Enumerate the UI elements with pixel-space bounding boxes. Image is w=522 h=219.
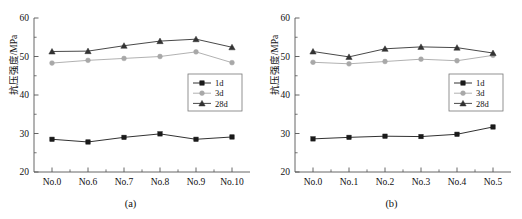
- data-point-marker-square: [158, 132, 162, 136]
- data-point-marker-square: [419, 134, 423, 138]
- chart-panel-b: 2030405060No.0No.1No.2No.3No.4No.51d3d28…: [261, 0, 522, 219]
- x-axis-tick-label: No.0: [43, 177, 62, 187]
- x-axis-tick-label: No.3: [412, 177, 431, 187]
- data-point-marker-circle: [50, 61, 55, 66]
- data-point-marker-square: [50, 137, 54, 141]
- x-axis-tick-label: No.0: [304, 177, 323, 187]
- chart-plot-a: 2030405060No.0No.6No.7No.8No.9No.101d3d2…: [0, 0, 261, 219]
- figure-container: 2030405060No.0No.6No.7No.8No.9No.101d3d2…: [0, 0, 522, 219]
- y-axis-tick-label: 60: [281, 13, 291, 23]
- data-point-marker-circle: [455, 58, 460, 63]
- x-axis-tick-label: No.10: [220, 177, 244, 187]
- legend-label-3d: 3d: [476, 88, 485, 98]
- legend-label-3d: 3d: [215, 88, 224, 98]
- y-axis-tick-label: 60: [20, 13, 30, 23]
- x-axis-tick-label: No.6: [79, 177, 98, 187]
- panel-caption: (a): [0, 198, 261, 209]
- panel-caption: (b): [261, 198, 522, 209]
- series-line-3d: [313, 55, 493, 63]
- data-point-marker-triangle: [310, 48, 316, 54]
- chart-panel-a: 2030405060No.0No.6No.7No.8No.9No.101d3d2…: [0, 0, 261, 219]
- data-point-marker-square: [194, 137, 198, 141]
- y-axis-title: 抗压强度/MPa: [267, 10, 281, 120]
- series-line-3d: [52, 52, 232, 63]
- x-axis-tick-label: No.9: [187, 177, 206, 187]
- data-point-marker-square: [86, 140, 90, 144]
- data-point-marker-square: [122, 135, 126, 139]
- y-axis-tick-label: 30: [281, 129, 291, 139]
- y-axis-title: 抗压强度/MPa: [6, 10, 20, 120]
- data-point-marker-circle: [419, 57, 424, 62]
- data-point-marker-circle: [194, 49, 199, 54]
- data-point-marker-square: [230, 135, 234, 139]
- data-point-marker-circle: [230, 60, 235, 65]
- y-axis-tick-label: 40: [281, 90, 291, 100]
- data-point-marker-square: [347, 135, 351, 139]
- y-axis-tick-label: 40: [20, 90, 30, 100]
- data-point-marker-square: [200, 81, 204, 85]
- legend-label-1d: 1d: [215, 78, 224, 88]
- data-point-marker-circle: [200, 91, 205, 96]
- data-point-marker-square: [311, 137, 315, 141]
- data-point-marker-square: [491, 125, 495, 129]
- series-line-1d: [313, 127, 493, 139]
- data-point-marker-circle: [311, 60, 316, 65]
- legend-label-1d: 1d: [476, 78, 485, 88]
- y-axis-tick-label: 50: [281, 52, 291, 62]
- legend-label-28d: 28d: [476, 99, 490, 109]
- y-axis-tick-label: 20: [281, 167, 291, 177]
- x-axis-tick-label: No.1: [340, 177, 359, 187]
- data-point-marker-square: [461, 81, 465, 85]
- data-point-marker-circle: [86, 58, 91, 63]
- data-point-marker-circle: [461, 91, 466, 96]
- x-axis-tick-label: No.4: [448, 177, 467, 187]
- chart-plot-b: 2030405060No.0No.1No.2No.3No.4No.51d3d28…: [261, 0, 522, 219]
- y-axis-tick-label: 50: [20, 52, 30, 62]
- series-line-1d: [52, 134, 232, 142]
- y-axis-tick-label: 20: [20, 167, 30, 177]
- x-axis-tick-label: No.2: [376, 177, 395, 187]
- x-axis-tick-label: No.7: [115, 177, 134, 187]
- series-line-28d: [313, 47, 493, 57]
- data-point-marker-circle: [347, 61, 352, 66]
- data-point-marker-circle: [383, 59, 388, 64]
- data-point-marker-circle: [158, 54, 163, 59]
- x-axis-tick-label: No.8: [151, 177, 170, 187]
- series-line-28d: [52, 39, 232, 51]
- y-axis-tick-label: 30: [20, 129, 30, 139]
- data-point-marker-square: [455, 132, 459, 136]
- legend-label-28d: 28d: [215, 99, 229, 109]
- data-point-marker-circle: [122, 56, 127, 61]
- data-point-marker-square: [383, 134, 387, 138]
- x-axis-tick-label: No.5: [484, 177, 503, 187]
